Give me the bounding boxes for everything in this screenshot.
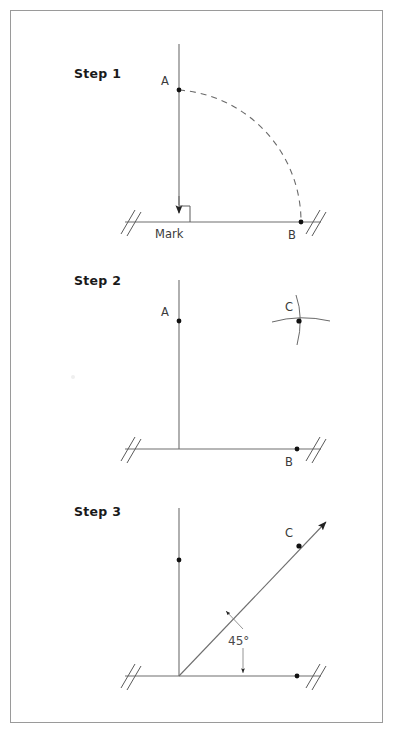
step-2-label-b: B xyxy=(285,455,293,469)
step-2-group: Step 2 A C B xyxy=(71,273,330,469)
step-1-construction-arc xyxy=(179,90,301,222)
step-2-point-c xyxy=(296,318,301,323)
step-3-group: Step 3 C 45° xyxy=(74,504,326,690)
step-2-point-a xyxy=(177,319,182,324)
step-2-label: Step 2 xyxy=(74,273,121,288)
step-3-point-a xyxy=(177,558,182,563)
step-2-label-a: A xyxy=(161,305,169,319)
step-1-label-a: A xyxy=(161,74,169,88)
step-1-label-b: B xyxy=(288,228,296,242)
step-2-right-tick xyxy=(306,437,326,463)
step-3-left-tick xyxy=(121,664,141,690)
diagram-canvas: Step 1 A B Mark xyxy=(0,0,395,735)
step-1-left-tick xyxy=(121,210,141,236)
step-1-right-tick xyxy=(306,210,326,236)
step-2-stray-speck xyxy=(71,375,75,379)
step-3-point-b xyxy=(295,674,300,679)
step-3-angle-ray xyxy=(179,522,326,676)
construction-figure: Step 1 A B Mark xyxy=(0,0,395,735)
step-1-label: Step 1 xyxy=(74,66,121,81)
step-2-left-tick xyxy=(121,437,141,463)
step-1-group: Step 1 A B Mark xyxy=(74,44,326,242)
step-1-label-mark: Mark xyxy=(155,227,184,241)
step-2-label-c: C xyxy=(285,300,293,314)
step-3-right-tick xyxy=(306,664,326,690)
step-1-right-angle-symbol xyxy=(179,206,190,222)
step-1-point-b xyxy=(299,220,304,225)
step-3-leader-to-ray xyxy=(226,611,243,629)
step-3-label-c: C xyxy=(285,526,293,540)
step-2-point-b xyxy=(295,447,300,452)
step-3-label: Step 3 xyxy=(74,504,121,519)
step-1-point-a xyxy=(177,88,182,93)
step-3-angle-label: 45° xyxy=(228,634,249,648)
step-3-point-c xyxy=(296,543,301,548)
